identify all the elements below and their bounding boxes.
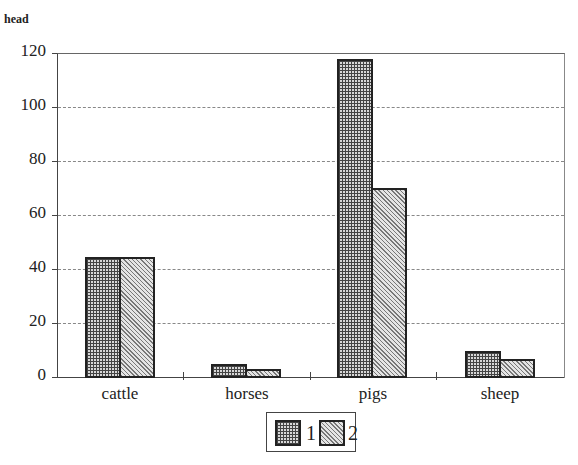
x-label-cattle: cattle	[57, 384, 183, 404]
y-tick-0: 0	[2, 365, 46, 385]
y-tick-60: 60	[2, 203, 46, 223]
x-label-sheep: sheep	[437, 384, 563, 404]
bar-sheep-series-2	[499, 359, 535, 378]
legend-label-series-1: 1	[306, 422, 316, 445]
bar-sheep-series-1	[465, 351, 501, 378]
x-tickmark	[183, 372, 184, 380]
x-tickmark	[436, 372, 437, 380]
y-tickmark	[52, 161, 57, 162]
y-tickmark	[52, 107, 57, 108]
y-tickmark	[52, 269, 57, 270]
x-label-pigs: pigs	[310, 384, 436, 404]
y-tick-20: 20	[2, 311, 46, 331]
gridline-60	[58, 215, 564, 216]
y-tickmark	[52, 323, 57, 324]
y-tick-100: 100	[2, 95, 46, 115]
legend-swatch-series-1	[275, 420, 301, 446]
y-tick-40: 40	[2, 257, 46, 277]
x-label-horses: horses	[184, 384, 310, 404]
bar-pigs-series-2	[371, 188, 407, 378]
bar-cattle-series-2	[119, 257, 155, 378]
bar-horses-series-1	[211, 364, 247, 378]
legend-label-series-2: 2	[348, 422, 358, 445]
legend-swatch-series-2	[319, 420, 345, 446]
y-tickmark	[52, 53, 57, 54]
bar-cattle-series-1	[85, 257, 121, 378]
gridline-80	[58, 161, 564, 162]
x-tickmark	[310, 372, 311, 380]
y-tick-120: 120	[2, 41, 46, 61]
gridline-100	[58, 107, 564, 108]
legend: 1 2	[266, 412, 356, 452]
y-tickmark	[52, 377, 57, 378]
y-axis-unit-label: head	[4, 12, 29, 27]
bar-pigs-series-1	[337, 59, 373, 378]
bar-horses-series-2	[245, 369, 281, 378]
y-tick-80: 80	[2, 149, 46, 169]
y-tickmark	[52, 215, 57, 216]
